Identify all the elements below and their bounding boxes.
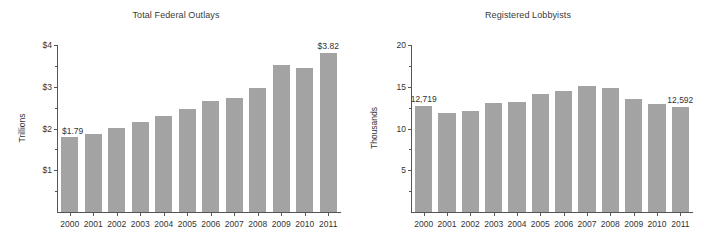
x-tick-label: 2009 bbox=[624, 219, 643, 229]
bar bbox=[179, 109, 196, 212]
chart-title-lobbyists: Registered Lobbyists bbox=[352, 10, 704, 20]
y-tick-minor bbox=[55, 149, 58, 150]
y-tick-major bbox=[408, 45, 412, 46]
x-tick bbox=[70, 212, 71, 216]
x-tick-label: 2010 bbox=[648, 219, 667, 229]
x-tick-label: 2000 bbox=[414, 219, 433, 229]
bar bbox=[85, 134, 102, 212]
x-tick bbox=[258, 212, 259, 216]
chart-panel-total-federal-outlays: Total Federal Outlays Trillions $1$2$3$4… bbox=[0, 0, 352, 247]
bar bbox=[438, 113, 455, 212]
bar bbox=[249, 88, 266, 212]
x-tick bbox=[424, 212, 425, 216]
x-tick bbox=[494, 212, 495, 216]
bar bbox=[625, 99, 642, 212]
x-tick-label: 2007 bbox=[225, 219, 244, 229]
bar bbox=[108, 128, 125, 212]
bar bbox=[462, 111, 479, 212]
x-tick bbox=[187, 212, 188, 216]
x-tick-label: 2005 bbox=[531, 219, 550, 229]
bar bbox=[273, 65, 290, 212]
bar bbox=[320, 53, 337, 212]
y-tick-major bbox=[408, 129, 412, 130]
x-tick bbox=[564, 212, 565, 216]
bar bbox=[415, 106, 432, 212]
x-axis-line bbox=[411, 212, 693, 213]
bar bbox=[132, 122, 149, 212]
x-tick-label: 2004 bbox=[508, 219, 527, 229]
bar bbox=[155, 116, 172, 212]
y-tick-minor bbox=[409, 108, 412, 109]
x-tick bbox=[634, 212, 635, 216]
bar bbox=[672, 107, 689, 212]
bar-data-label: $1.79 bbox=[62, 126, 83, 136]
chart-panel-registered-lobbyists: Registered Lobbyists Thousands 510152020… bbox=[352, 0, 704, 247]
y-axis-label-outlays: Trillions bbox=[17, 114, 27, 143]
x-tick-label: 2009 bbox=[272, 219, 291, 229]
y-axis-label-lobbyists: Thousands bbox=[369, 107, 379, 149]
y-tick-minor bbox=[55, 191, 58, 192]
bar bbox=[61, 137, 78, 212]
x-tick bbox=[140, 212, 141, 216]
bar-data-label: $3.82 bbox=[318, 41, 339, 51]
bar bbox=[602, 88, 619, 212]
x-tick-label: 2008 bbox=[248, 219, 267, 229]
y-tick-label: $4 bbox=[43, 40, 52, 50]
x-tick bbox=[657, 212, 658, 216]
x-tick-label: 2008 bbox=[601, 219, 620, 229]
x-tick-label: 2003 bbox=[131, 219, 150, 229]
y-tick-major bbox=[408, 170, 412, 171]
x-tick bbox=[328, 212, 329, 216]
y-tick-label: 15 bbox=[397, 82, 406, 92]
x-tick-label: 2011 bbox=[671, 219, 689, 229]
x-tick bbox=[470, 212, 471, 216]
x-tick-label: 2000 bbox=[60, 219, 79, 229]
x-tick bbox=[517, 212, 518, 216]
bar bbox=[532, 94, 549, 212]
x-tick bbox=[680, 212, 681, 216]
x-tick bbox=[540, 212, 541, 216]
x-tick-label: 2005 bbox=[178, 219, 197, 229]
y-tick-minor bbox=[409, 66, 412, 67]
y-tick-major bbox=[54, 45, 58, 46]
y-tick-label: 20 bbox=[397, 40, 406, 50]
y-tick-major bbox=[408, 87, 412, 88]
y-tick-minor bbox=[409, 149, 412, 150]
x-tick-label: 2006 bbox=[554, 219, 573, 229]
chart-title-outlays: Total Federal Outlays bbox=[0, 10, 352, 20]
plot-area-outlays: $1$2$3$420002001200220032004200520062007… bbox=[58, 45, 340, 212]
y-tick-major bbox=[54, 87, 58, 88]
y-tick-label: 5 bbox=[401, 165, 406, 175]
y-tick-minor bbox=[409, 191, 412, 192]
bar bbox=[226, 98, 243, 212]
bar-data-label: 12,592 bbox=[667, 95, 693, 105]
plot-area-lobbyists: 5101520200020012002200320042005200620072… bbox=[412, 45, 692, 212]
x-tick bbox=[281, 212, 282, 216]
x-tick-label: 2004 bbox=[154, 219, 173, 229]
x-tick-label: 2001 bbox=[438, 219, 457, 229]
x-tick-label: 2001 bbox=[84, 219, 103, 229]
bar bbox=[508, 102, 525, 212]
x-tick bbox=[305, 212, 306, 216]
y-tick-minor bbox=[55, 66, 58, 67]
bar bbox=[296, 68, 313, 212]
y-tick-major bbox=[54, 170, 58, 171]
x-tick-label: 2002 bbox=[461, 219, 480, 229]
bar-data-label: 12,719 bbox=[411, 94, 437, 104]
x-tick bbox=[447, 212, 448, 216]
x-tick-label: 2003 bbox=[484, 219, 503, 229]
x-tick bbox=[234, 212, 235, 216]
x-tick bbox=[93, 212, 94, 216]
bar bbox=[578, 86, 595, 212]
y-tick-minor bbox=[55, 108, 58, 109]
x-tick-label: 2007 bbox=[578, 219, 597, 229]
y-tick-label: $3 bbox=[43, 82, 52, 92]
y-tick-label: 10 bbox=[397, 124, 406, 134]
bar bbox=[648, 104, 665, 212]
x-tick-label: 2006 bbox=[201, 219, 220, 229]
x-tick bbox=[164, 212, 165, 216]
figure-canvas: Total Federal Outlays Trillions $1$2$3$4… bbox=[0, 0, 704, 247]
x-tick-label: 2011 bbox=[319, 219, 337, 229]
x-tick bbox=[587, 212, 588, 216]
y-tick-label: $1 bbox=[43, 165, 52, 175]
